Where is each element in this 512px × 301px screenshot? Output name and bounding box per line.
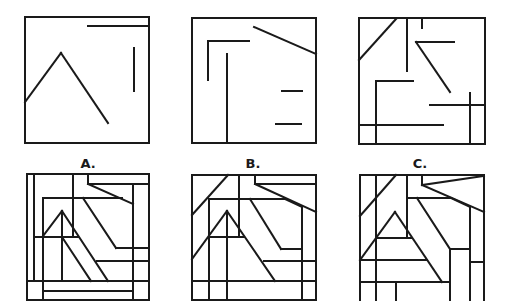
answer-options-group [27, 174, 484, 301]
fragment-3 [359, 18, 485, 144]
panel-border [25, 17, 149, 143]
option-c [360, 175, 484, 301]
line-segment [83, 198, 116, 248]
line-segment [417, 198, 450, 249]
line-segment [25, 53, 61, 102]
option-label-a: A. [80, 157, 95, 170]
line-segment [227, 211, 275, 281]
line-segment [254, 27, 316, 54]
line-segment [422, 176, 484, 185]
puzzle-figure [0, 0, 512, 301]
option-a [27, 174, 149, 300]
line-segment [395, 212, 442, 282]
line-segment [451, 198, 470, 207]
line-segment [43, 211, 62, 236]
fragment-2 [192, 18, 316, 143]
option-label-c: C. [413, 157, 427, 170]
line-segment [88, 184, 133, 204]
line-segment [359, 19, 396, 60]
fragment-1 [25, 17, 149, 143]
fragment-group [25, 17, 485, 144]
line-segment [61, 53, 108, 123]
line-segment [62, 237, 91, 281]
line-segment [360, 175, 396, 216]
line-segment [416, 42, 450, 92]
line-segment [285, 199, 302, 207]
line-segment [250, 199, 281, 249]
option-b [192, 175, 316, 301]
option-label-b: B. [246, 157, 261, 170]
line-segment [360, 212, 395, 260]
